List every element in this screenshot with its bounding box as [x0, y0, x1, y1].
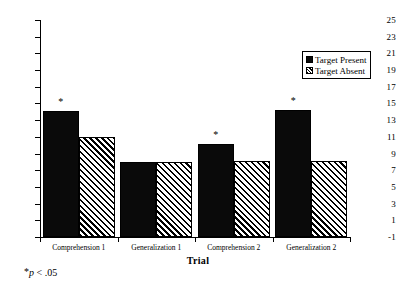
bar-target-present	[43, 111, 79, 237]
x-axis-tick	[195, 238, 196, 242]
x-axis-tick	[118, 238, 119, 242]
chart-legend: Target Present Target Absent	[302, 51, 371, 79]
legend-swatch-solid-icon	[306, 56, 313, 63]
y-axis-tick-label: 13	[362, 116, 396, 125]
significance-asterisk: *	[58, 97, 63, 107]
y-axis-tick-label: 23	[362, 32, 396, 41]
legend-label-target-present: Target Present	[315, 55, 366, 65]
y-axis-tick-label: 1	[362, 216, 396, 225]
bar-target-present	[120, 162, 156, 237]
y-axis-tick-label: 25	[362, 16, 396, 25]
bar-chart: 252321191715131197531-1 Comprehension 1G…	[0, 0, 396, 290]
x-axis-category-label: Comprehension 2	[207, 243, 260, 252]
y-axis-tick-label: 9	[362, 149, 396, 158]
y-axis-tick-label: 11	[362, 132, 396, 141]
legend-item-target-absent: Target Absent	[306, 65, 366, 76]
x-axis-tick	[273, 238, 274, 242]
significance-asterisk: *	[291, 96, 296, 106]
y-axis-tick-label: 17	[362, 82, 396, 91]
legend-label-target-absent: Target Absent	[315, 66, 365, 76]
x-axis-category-label: Generalization 1	[131, 243, 181, 252]
bar-target-present	[198, 144, 234, 237]
footnote-rest: < .05	[34, 267, 57, 278]
bar-target-absent	[79, 137, 115, 237]
bar-target-absent	[156, 162, 192, 237]
y-axis-tick-label: 3	[362, 199, 396, 208]
bar-target-present	[275, 110, 311, 237]
x-axis-category-label: Generalization 2	[286, 243, 336, 252]
bar-target-absent	[311, 161, 347, 237]
x-axis-tick	[350, 238, 351, 242]
significance-footnote: *p < .05	[24, 266, 57, 278]
legend-item-target-present: Target Present	[306, 54, 366, 65]
y-axis-tick-label: 7	[362, 166, 396, 175]
x-axis-title: Trial	[0, 255, 396, 266]
y-axis-tick-label: -1	[362, 233, 396, 242]
x-axis-category-label: Comprehension 1	[52, 243, 105, 252]
x-axis-tick	[40, 238, 41, 242]
bar-target-absent	[234, 161, 270, 237]
y-axis-tick-label: 15	[362, 99, 396, 108]
legend-swatch-hatch-icon	[306, 67, 313, 74]
significance-asterisk: *	[213, 130, 218, 140]
y-axis-tick-label: 5	[362, 182, 396, 191]
